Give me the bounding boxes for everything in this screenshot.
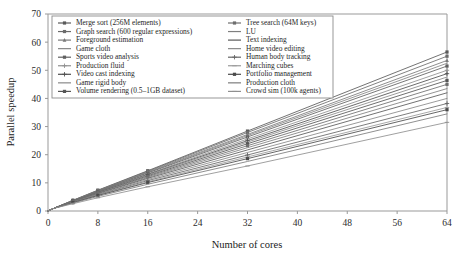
x-tick-label: 16: [143, 218, 153, 228]
series-marker: [246, 144, 249, 147]
y-tick-label: 30: [32, 122, 42, 132]
series-marker: [445, 79, 448, 82]
series-marker: [63, 56, 66, 59]
x-tick-label: 8: [96, 218, 101, 228]
series-marker: [445, 58, 449, 62]
series-marker: [445, 55, 448, 58]
parallel-speedup-line-chart: 010203040506070 0816243240485664 Paralle…: [0, 0, 470, 268]
legend: Merge sort (256M elements)Graph search (…: [52, 16, 333, 98]
series-16: [48, 114, 447, 211]
series-marker: [445, 108, 448, 111]
y-tick-label: 40: [32, 94, 42, 104]
series-13: [48, 101, 449, 211]
series-marker: [233, 21, 236, 24]
x-tick-label: 32: [243, 218, 253, 228]
y-tick-label: 0: [36, 206, 41, 216]
x-tick-label: 24: [193, 218, 203, 228]
chart-page: 010203040506070 0816243240485664 Paralle…: [0, 0, 470, 268]
legend-item-label: Tree search (64M keys): [246, 18, 317, 27]
series-polyline: [48, 114, 447, 211]
y-axis-ticks: 010203040506070: [32, 9, 49, 216]
series-marker: [445, 83, 448, 86]
x-axis-ticks: 0816243240485664: [46, 211, 452, 228]
legend-item-label: Crowd sim (100k agents): [246, 86, 321, 95]
series-marker: [246, 157, 249, 160]
series-marker: [63, 21, 66, 24]
legend-item-label: Volume rendering (0.5–1GB dataset): [76, 86, 186, 95]
y-tick-label: 50: [32, 66, 42, 76]
x-tick-label: 56: [392, 218, 402, 228]
y-tick-label: 10: [32, 178, 42, 188]
series-marker: [233, 73, 236, 76]
y-tick-label: 70: [32, 9, 42, 19]
x-tick-label: 64: [442, 218, 452, 228]
series-marker: [63, 30, 66, 33]
y-axis-title: Parallel speedup: [5, 77, 16, 146]
x-axis-title: Number of cores: [212, 239, 283, 250]
series-marker: [63, 90, 66, 93]
series-marker: [445, 50, 448, 53]
series-marker: [445, 64, 448, 67]
y-tick-label: 20: [32, 150, 42, 160]
x-tick-label: 40: [293, 218, 303, 228]
y-tick-label: 60: [32, 38, 42, 48]
x-tick-label: 48: [343, 218, 353, 228]
x-tick-label: 0: [46, 218, 51, 228]
